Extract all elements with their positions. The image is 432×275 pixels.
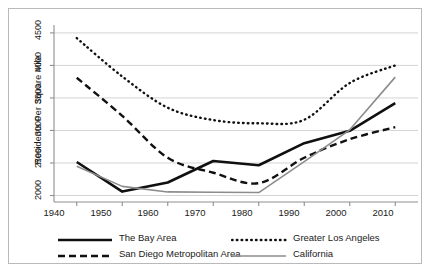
legend-label-greater-los-angeles: Greater Los Angeles [293,232,380,243]
series-line-california [77,77,396,192]
series-line-greater-los-angeles [77,38,396,124]
legend-swatch-san-diego [57,247,113,265]
figure-border: Residents Per Square Mile 4500 4000 3500… [8,8,422,264]
y-tick-marks [50,33,54,196]
data-series-group [77,38,396,192]
x-tick-marks [77,202,396,206]
plot-container: Residents Per Square Mile 4500 4000 3500… [9,9,423,265]
legend-label-california: California [293,248,333,259]
chart-figure: Residents Per Square Mile 4500 4000 3500… [0,0,432,275]
legend-label-san-diego: San Diego Metropolitan Area [119,248,240,259]
legend-swatch-california [231,247,287,265]
legend-label-bay-area: The Bay Area [119,232,177,243]
plot-svg [9,9,423,265]
